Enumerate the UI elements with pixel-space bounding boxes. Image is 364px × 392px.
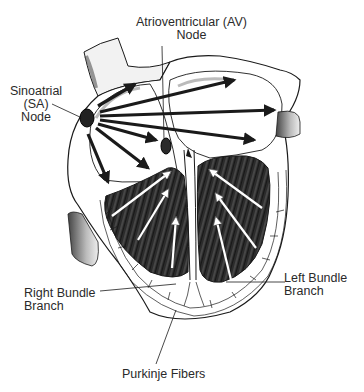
right-bundle-label-line2: Branch: [24, 300, 96, 313]
av-node-label-line2: Node: [136, 29, 247, 42]
purkinje-label-line1: Purkinje Fibers: [122, 368, 205, 381]
left-bundle-label: Left Bundle Branch: [284, 272, 347, 298]
right-bundle-label: Right Bundle Branch: [24, 287, 96, 313]
sa-node-label: Sinoatrial (SA) Node: [10, 85, 62, 124]
heart-conduction-diagram: [0, 0, 364, 392]
purkinje-label: Purkinje Fibers: [122, 368, 205, 381]
av-node: [161, 138, 171, 154]
av-node-label: Atrioventricular (AV) Node: [136, 16, 247, 42]
sa-node-label-line3: Node: [10, 111, 62, 124]
pulmonary-vein: [276, 111, 300, 137]
sa-node: [80, 109, 94, 127]
left-bundle-label-line2: Branch: [284, 285, 347, 298]
